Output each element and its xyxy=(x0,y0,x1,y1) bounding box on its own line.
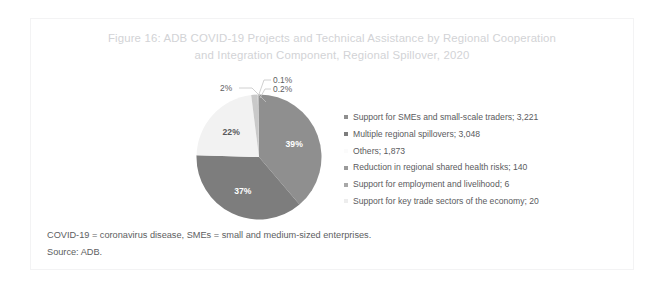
legend-color-swatch-icon xyxy=(344,183,348,187)
callout-label-2-percent: 2% xyxy=(220,83,232,93)
callout-label-0-1-percent: 0.1% xyxy=(273,75,292,85)
pie-chart: 39%37%22% 2% 0.1% 0.2% Support for SMEs … xyxy=(30,70,634,220)
legend-color-swatch-icon xyxy=(344,115,348,119)
figure-title: Figure 16: ADB COVID-19 Projects and Tec… xyxy=(30,30,634,64)
legend-item[interactable]: Support for key trade sectors of the eco… xyxy=(343,193,633,210)
legend-item-label: Support for key trade sectors of the eco… xyxy=(353,197,539,206)
pie-slice-percent-label: 22% xyxy=(223,127,241,137)
callout-label-0-2-percent: 0.2% xyxy=(273,84,292,94)
legend-item-label: Support for SMEs and small-scale traders… xyxy=(353,113,538,122)
footnote-source: Source: ADB. xyxy=(47,244,607,261)
pie-slices xyxy=(197,95,322,220)
pie-slice-percent-label: 37% xyxy=(234,186,252,196)
pie-slice-percent-label: 39% xyxy=(286,139,304,149)
legend-item[interactable]: Others; 1,873 xyxy=(343,143,633,160)
legend-item[interactable]: Support for SMEs and small-scale traders… xyxy=(343,109,633,126)
chart-legend: Support for SMEs and small-scale traders… xyxy=(343,109,633,210)
legend-color-swatch-icon xyxy=(344,199,348,203)
legend-item-label: Reduction in regional shared health risk… xyxy=(353,163,527,172)
legend-color-swatch-icon xyxy=(344,166,348,170)
legend-item-label: Multiple regional spillovers; 3,048 xyxy=(353,130,480,139)
legend-color-swatch-icon xyxy=(344,132,348,136)
legend-item[interactable]: Reduction in regional shared health risk… xyxy=(343,159,633,176)
legend-item[interactable]: Multiple regional spillovers; 3,048 xyxy=(343,126,633,143)
legend-item-label: Others; 1,873 xyxy=(353,147,405,156)
footnote-definitions: COVID-19 = coronavirus disease, SMEs = s… xyxy=(47,227,607,244)
pie-svg: 39%37%22% xyxy=(193,94,325,220)
legend-color-swatch-icon xyxy=(344,149,348,153)
legend-item-label: Support for employment and livelihood; 6 xyxy=(353,180,509,189)
pie-graphic: 39%37%22% xyxy=(193,94,325,220)
figure-footnotes: COVID-19 = coronavirus disease, SMEs = s… xyxy=(47,227,607,261)
legend-item[interactable]: Support for employment and livelihood; 6 xyxy=(343,176,633,193)
